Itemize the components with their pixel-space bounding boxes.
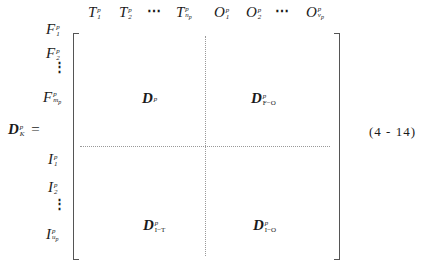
- block-top-right: DpF−O: [251, 90, 276, 107]
- row-label-i1: Ip1: [48, 152, 58, 167]
- row-label-iu: Ipup: [46, 227, 59, 243]
- row-label-fm: Fpmp: [43, 90, 61, 106]
- row-label-f1: Fp1: [46, 22, 60, 37]
- col-header-t1: Tp1: [88, 5, 101, 20]
- block-top-left: Dp: [142, 90, 157, 107]
- horizontal-partition-line: [80, 146, 330, 147]
- row-label-i2: Ip2: [48, 180, 58, 195]
- row-label-ellipsis-i: ⋮: [53, 201, 61, 206]
- block-bottom-left: DpI−T: [143, 217, 165, 234]
- right-bracket: [334, 33, 340, 260]
- col-header-ellipsis-t: ⋯: [147, 3, 162, 20]
- col-header-o2: Op2: [246, 5, 261, 20]
- equation-number: (4 - 14): [369, 124, 416, 140]
- col-header-t2: Tp2: [119, 5, 132, 20]
- col-header-ov: Opvp: [306, 5, 324, 21]
- row-label-ellipsis-f: ⋮: [53, 64, 61, 69]
- col-header-ellipsis-o: ⋯: [275, 3, 290, 20]
- col-header-o1: Op1: [214, 5, 229, 20]
- col-header-tn: Tpnp: [176, 5, 192, 21]
- equals-sign: =: [31, 121, 39, 137]
- block-bottom-right: DpI−O: [253, 217, 276, 234]
- lhs-matrix-symbol: DpK =: [8, 122, 40, 137]
- left-bracket: [73, 33, 79, 260]
